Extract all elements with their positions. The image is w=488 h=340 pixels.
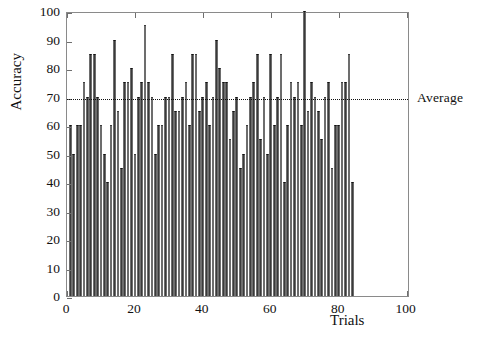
bar <box>273 125 276 296</box>
bar <box>327 82 330 296</box>
y-tick-label: 80 <box>0 62 60 76</box>
bar <box>341 82 344 296</box>
y-tick-mark <box>67 70 72 71</box>
bar <box>140 82 143 296</box>
bar <box>76 125 79 296</box>
x-tick-label: 0 <box>46 302 86 316</box>
y-tick-mark <box>67 184 72 185</box>
x-tick-mark <box>339 291 340 296</box>
plot-area <box>66 12 409 297</box>
bar <box>239 168 242 296</box>
bar <box>157 125 160 296</box>
bar <box>266 154 269 297</box>
average-line-label: Average <box>417 90 463 106</box>
bar <box>164 97 167 297</box>
x-tick-mark-top <box>339 13 340 18</box>
bar <box>256 54 259 296</box>
bar <box>198 111 201 296</box>
bar <box>246 125 249 296</box>
bar <box>147 82 150 296</box>
x-axis-title: Trials <box>330 312 364 329</box>
y-tick-label: 50 <box>0 148 60 162</box>
x-tick-mark <box>271 291 272 296</box>
bar <box>130 68 133 296</box>
x-tick-label: 40 <box>182 302 222 316</box>
x-tick-mark-top <box>135 13 136 18</box>
bar <box>174 111 177 296</box>
bar <box>276 97 279 297</box>
bar <box>89 54 92 296</box>
bar <box>297 82 300 296</box>
bar <box>110 125 113 296</box>
bar <box>113 40 116 297</box>
bar <box>331 168 334 296</box>
bar <box>293 97 296 297</box>
y-tick-mark <box>67 42 72 43</box>
bar <box>93 54 96 296</box>
y-tick-label: 90 <box>0 34 60 48</box>
bar <box>83 82 86 296</box>
bar <box>232 111 235 296</box>
y-tick-mark <box>67 156 72 157</box>
bar <box>242 154 245 297</box>
bar <box>344 82 347 296</box>
bar <box>154 154 157 297</box>
x-tick-label: 100 <box>386 302 426 316</box>
bar <box>300 125 303 296</box>
bar <box>263 97 266 297</box>
bar <box>120 168 123 296</box>
y-tick-mark <box>67 298 72 299</box>
x-tick-mark-top <box>203 13 204 18</box>
bar <box>178 111 181 296</box>
bar <box>100 125 103 296</box>
bar <box>195 54 198 296</box>
bar <box>161 125 164 296</box>
y-tick-mark <box>67 270 72 271</box>
bar <box>96 97 99 297</box>
x-tick-label: 20 <box>114 302 154 316</box>
y-tick-label: 70 <box>0 91 60 105</box>
bar <box>290 82 293 296</box>
bar <box>212 97 215 297</box>
bar <box>205 82 208 296</box>
bar <box>269 54 272 296</box>
bar <box>280 54 283 296</box>
bar <box>249 97 252 297</box>
bar <box>307 111 310 296</box>
x-tick-mark-top <box>271 13 272 18</box>
y-tick-label: 10 <box>0 262 60 276</box>
bar <box>168 97 171 297</box>
bar <box>117 111 120 296</box>
bar <box>225 82 228 296</box>
y-tick-label: 100 <box>0 5 60 19</box>
x-tick-label: 60 <box>250 302 290 316</box>
bar <box>188 125 191 296</box>
bar <box>106 182 109 296</box>
bar <box>320 139 323 296</box>
bar <box>337 125 340 296</box>
bar <box>286 125 289 296</box>
bar <box>137 97 140 297</box>
x-tick-mark <box>203 291 204 296</box>
bar <box>72 154 75 297</box>
bar <box>334 125 337 296</box>
y-tick-label: 40 <box>0 176 60 190</box>
bar <box>201 97 204 297</box>
average-reference-line <box>67 99 408 100</box>
bar <box>123 82 126 296</box>
bar <box>86 97 89 297</box>
bar <box>103 154 106 297</box>
bar <box>208 125 211 296</box>
bar <box>235 97 238 297</box>
bars-layer <box>67 13 408 296</box>
y-tick-label: 20 <box>0 233 60 247</box>
bar <box>218 68 221 296</box>
y-tick-mark <box>67 213 72 214</box>
bar <box>324 97 327 297</box>
bar <box>303 11 306 296</box>
bar <box>151 97 154 297</box>
x-tick-mark <box>135 291 136 296</box>
x-tick-mark-top <box>407 13 408 18</box>
bar <box>215 40 218 297</box>
bar <box>144 25 147 296</box>
